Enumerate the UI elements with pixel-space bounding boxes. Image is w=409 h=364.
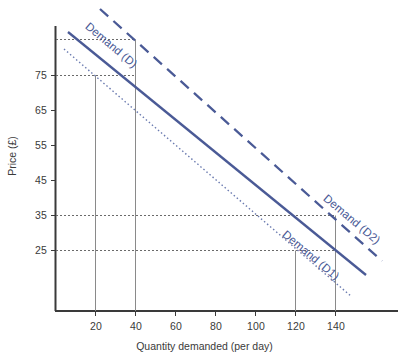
demand-curve-d2 [100,9,382,261]
x-tick-label-80: 80 [201,320,231,332]
y-tick-label-45: 45 [25,174,47,186]
demand-curve-d [68,32,366,275]
y-tick-label-35: 35 [25,209,47,221]
x-tick-label-40: 40 [121,320,151,332]
x-tick-label-20: 20 [81,320,111,332]
horizontal-guide-lines [56,40,336,251]
x-tick-label-140: 140 [321,320,351,332]
vertical-guide-lines [96,40,336,312]
y-axis-title: Price (£) [6,126,18,186]
y-tick-label-25: 25 [25,244,47,256]
y-tick-label-55: 55 [25,139,47,151]
demand-curve-chart: 75 65 55 45 35 25 20 40 60 80 100 120 14… [0,0,409,364]
x-tick-label-60: 60 [161,320,191,332]
y-tick-label-75: 75 [25,69,47,81]
x-tick-label-100: 100 [241,320,271,332]
plot-area [0,0,409,364]
x-axis-title: Quantity demanded (per day) [0,340,409,352]
y-tick-label-65: 65 [25,104,47,116]
x-tick-label-120: 120 [281,320,311,332]
